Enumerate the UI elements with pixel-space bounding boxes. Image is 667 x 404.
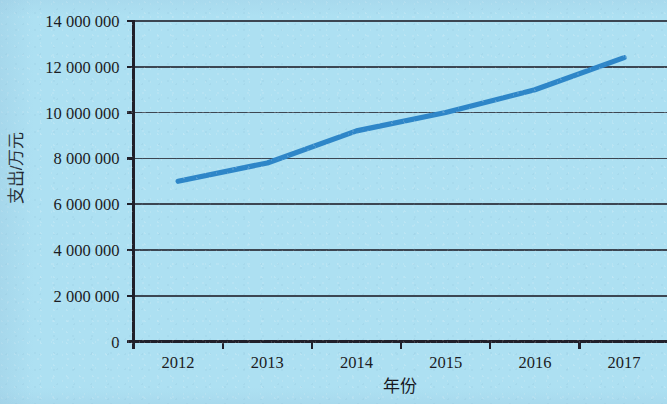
x-axis-tick-label: 2015 [429, 353, 462, 372]
y-axis-tick-label: 6 000 000 [54, 195, 120, 214]
x-axis-tick-label: 2014 [340, 353, 373, 372]
x-axis-tick-label: 2016 [518, 353, 551, 372]
y-axis-title: 支出/万元 [7, 132, 26, 205]
y-axis-tick-label: 2 000 000 [54, 287, 120, 306]
y-axis-tick-label: 10 000 000 [45, 104, 119, 123]
x-axis-tick-labels: 201220132014201520162017 [162, 353, 641, 372]
y-axis-tick-label: 8 000 000 [54, 149, 120, 168]
y-axis-tick-label: 12 000 000 [45, 58, 119, 77]
y-axis-tick-labels: 02 000 0004 000 0006 000 0008 000 00010 … [45, 12, 119, 352]
gridlines [134, 21, 667, 296]
x-axis-title: 年份 [383, 377, 417, 396]
y-axis-tick-label: 14 000 000 [45, 12, 119, 31]
x-axis-tick-label: 2012 [162, 353, 195, 372]
chart-canvas: 02 000 0004 000 0006 000 0008 000 00010 … [0, 0, 667, 404]
line-chart-figure: 02 000 0004 000 0006 000 0008 000 00010 … [0, 0, 667, 404]
y-axis-tick-label: 0 [111, 333, 119, 352]
x-axis-tick-label: 2013 [251, 353, 284, 372]
y-axis-tick-label: 4 000 000 [54, 241, 120, 260]
x-axis-tick-label: 2017 [608, 353, 641, 372]
expenditure-data-line [178, 58, 624, 182]
